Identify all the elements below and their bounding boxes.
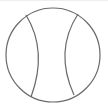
left-seam xyxy=(26,15,38,97)
ball-icon xyxy=(0,1,108,108)
ball-outline xyxy=(6,8,100,102)
right-seam xyxy=(65,14,78,95)
ball-icon-canvas xyxy=(0,0,108,108)
